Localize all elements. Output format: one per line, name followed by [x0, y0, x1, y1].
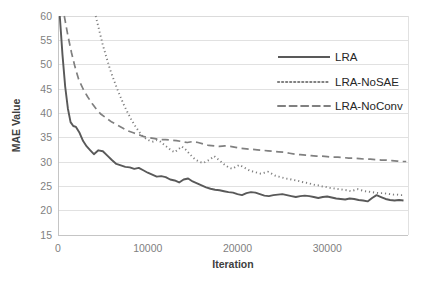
legend-label-lra-noconv: LRA-NoConv [335, 100, 403, 112]
y-axis-tick-label: 40 [40, 107, 52, 119]
y-axis-tick-label: 60 [40, 10, 52, 22]
chart-container: 15202530354045505560 0100002000030000 MA… [0, 0, 430, 285]
x-axis-tick-label: 30000 [313, 242, 342, 254]
y-axis-tick-label: 55 [40, 34, 52, 46]
y-axis-tick-label: 50 [40, 58, 52, 70]
x-axis-tick-label: 10000 [133, 242, 162, 254]
y-axis-tick-label: 30 [40, 156, 52, 168]
y-axis-tick-label: 25 [40, 180, 52, 192]
legend-label-lra-nosae: LRA-NoSAE [335, 76, 399, 88]
chart-background [0, 0, 430, 285]
legend-label-lra: LRA [335, 51, 358, 63]
x-axis-tick-label: 0 [55, 242, 61, 254]
y-axis-tick-label: 20 [40, 204, 52, 216]
line-chart: 15202530354045505560 0100002000030000 MA… [0, 0, 430, 285]
x-axis-tick-label: 20000 [223, 242, 252, 254]
y-axis-tick-label: 15 [40, 229, 52, 241]
y-axis-tick-label: 45 [40, 83, 52, 95]
y-axis-tick-label: 35 [40, 131, 52, 143]
x-axis-title: Iteration [212, 258, 253, 270]
y-axis-title: MAE Value [10, 98, 22, 152]
